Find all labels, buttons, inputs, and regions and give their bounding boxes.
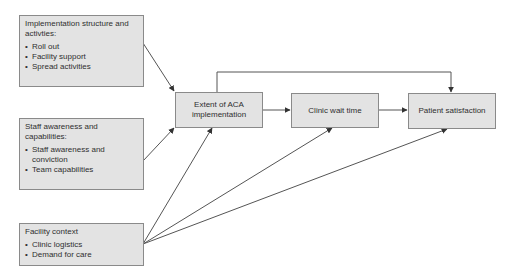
- node-patient-satisfaction: Patient satisfaction: [408, 93, 496, 129]
- edge-implementation-to-aca: [143, 43, 174, 91]
- node-label: Clinic wait time: [308, 106, 361, 116]
- factor-item: Clinic logistics: [25, 240, 138, 250]
- node-label: Patient satisfaction: [418, 106, 485, 116]
- node-label: Extent of ACA implementation: [182, 100, 256, 120]
- factor-item: Team capabilities: [25, 165, 138, 175]
- edge-facility-to-satisfaction: [143, 129, 447, 244]
- factor-item: Demand for care: [25, 250, 138, 260]
- factor-items: Clinic logistics Demand for care: [25, 240, 138, 260]
- edge-facility-to-aca: [143, 128, 212, 244]
- edge-facility-to-wait: [143, 128, 332, 244]
- factor-title: Staff awareness and capabilities:: [25, 122, 138, 142]
- factor-staff-awareness: Staff awareness and capabilities: Staff …: [19, 118, 144, 190]
- factor-item: Roll out: [25, 42, 138, 52]
- edge-aca-to-satisfaction: [217, 72, 451, 92]
- factor-item: Facility support: [25, 52, 138, 62]
- factor-facility-context: Facility context Clinic logistics Demand…: [19, 223, 144, 266]
- factor-items: Staff awareness and conviction Team capa…: [25, 145, 138, 175]
- factor-items: Roll out Facility support Spread activit…: [25, 42, 138, 72]
- factor-item: Spread activities: [25, 62, 138, 72]
- factor-title: Facility context: [25, 227, 138, 237]
- factor-item: Staff awareness and conviction: [25, 145, 138, 165]
- node-aca-implementation: Extent of ACA implementation: [175, 92, 263, 128]
- factor-title: Implementation structure and activties:: [25, 19, 138, 39]
- node-clinic-wait-time: Clinic wait time: [291, 93, 379, 128]
- factor-implementation-structure: Implementation structure and activties: …: [19, 15, 144, 87]
- edge-staff-to-aca: [143, 128, 174, 161]
